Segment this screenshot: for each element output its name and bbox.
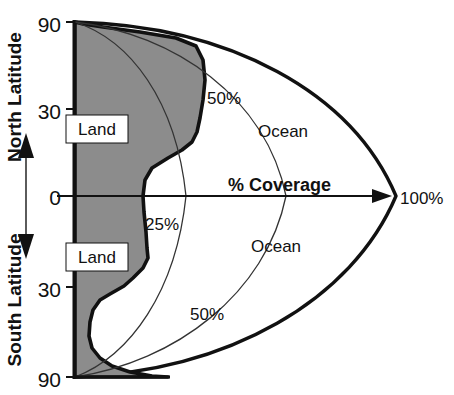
- coverage-axis-label: % Coverage: [228, 175, 331, 195]
- latitude-coverage-chart: 90 30 0 30 90 North Latitude South Latit…: [0, 0, 454, 395]
- tick-label-90-south: 90: [38, 368, 61, 391]
- south-latitude-axis-title: South Latitude: [4, 234, 25, 367]
- ocean-south-label: Ocean: [251, 237, 301, 256]
- tick-label-0-equator: 0: [49, 186, 61, 209]
- isoline-label-50-north: 50%: [207, 89, 241, 108]
- isoline-label-25-south: 25%: [145, 215, 179, 234]
- land-north-label: Land: [78, 120, 116, 139]
- figure-root: 90 30 0 30 90 North Latitude South Latit…: [0, 0, 454, 395]
- ocean-north-label: Ocean: [258, 122, 308, 141]
- land-south-label: Land: [78, 248, 116, 267]
- tick-label-90-north: 90: [38, 13, 61, 36]
- isoline-label-50-south: 50%: [190, 305, 224, 324]
- coverage-100-percent-label: 100%: [400, 189, 443, 208]
- tick-label-30-south: 30: [38, 278, 61, 301]
- tick-label-30-north: 30: [38, 100, 61, 123]
- north-latitude-axis-title: North Latitude: [4, 32, 25, 162]
